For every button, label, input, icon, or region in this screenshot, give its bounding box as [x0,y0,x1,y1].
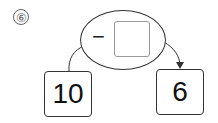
arrow-head-icon [176,62,184,69]
answer-blank-input[interactable] [114,21,150,57]
minus-operator: − [92,26,105,48]
start-value-box: 10 [44,71,92,117]
result-value-box: 6 [156,69,204,115]
